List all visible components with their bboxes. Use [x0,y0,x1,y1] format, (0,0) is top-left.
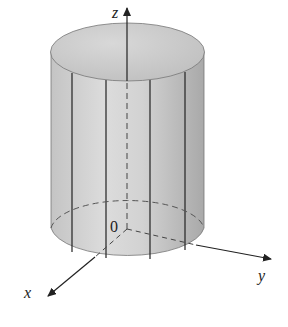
y-axis [196,245,271,259]
y-axis-label: y [256,267,266,285]
z-axis-label: z [111,4,119,21]
cylinder-diagram: z x y 0 [0,0,288,327]
x-axis [48,257,95,296]
x-axis-label: x [23,284,31,301]
origin-label: 0 [110,218,118,235]
